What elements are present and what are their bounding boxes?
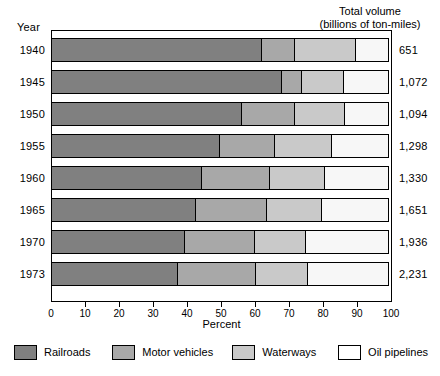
bar-segment-pipelines — [321, 198, 389, 222]
total-volume-value: 1,330 — [399, 172, 440, 184]
chart-legend: RailroadsMotor vehiclesWaterwaysOil pipe… — [14, 340, 428, 364]
stacked-bar — [51, 70, 392, 94]
total-volume-column-header: Total volume (billions of ton-miles) — [300, 5, 440, 31]
bar-segment-motor — [201, 166, 270, 190]
bar-segment-pipelines — [324, 166, 389, 190]
bar-segment-pipelines — [331, 134, 389, 158]
bar-segment-railroads — [51, 166, 202, 190]
total-volume-value: 1,094 — [399, 108, 440, 120]
legend-label: Waterways — [262, 346, 316, 358]
bar-segment-motor — [261, 38, 294, 62]
year-label: 1970 — [0, 236, 45, 248]
total-volume-value: 2,231 — [399, 268, 440, 280]
bar-segment-waterways — [301, 70, 344, 94]
bar-segment-pipelines — [343, 70, 389, 94]
year-label: 1965 — [0, 204, 45, 216]
bar-segment-waterways — [266, 198, 322, 222]
bar-segment-waterways — [294, 102, 345, 126]
x-axis-tick — [153, 302, 154, 307]
bar-segment-pipelines — [355, 38, 389, 62]
bar-segment-railroads — [51, 198, 196, 222]
bar-segment-railroads — [51, 38, 262, 62]
year-label: 1945 — [0, 76, 45, 88]
bar-segment-motor — [195, 198, 267, 222]
legend-swatch-waterways — [232, 345, 255, 360]
total-volume-value: 1,936 — [399, 236, 440, 248]
x-axis-tick — [357, 302, 358, 307]
x-axis-tick — [187, 302, 188, 307]
year-column-header: Year — [17, 21, 40, 33]
year-label: 1940 — [0, 44, 45, 56]
legend-item-motor[interactable]: Motor vehicles — [112, 345, 213, 360]
bar-segment-railroads — [51, 230, 185, 254]
total-volume-value: 1,072 — [399, 76, 440, 88]
bar-segment-pipelines — [344, 102, 389, 126]
bar-segment-pipelines — [307, 262, 389, 286]
stacked-bar — [51, 230, 392, 254]
bar-segment-motor — [177, 262, 256, 286]
x-axis-title: Percent — [51, 318, 392, 330]
bar-segment-railroads — [51, 70, 282, 94]
bar-segment-motor — [241, 102, 295, 126]
legend-label: Oil pipelines — [368, 346, 428, 358]
stacked-bar — [51, 198, 392, 222]
x-axis-tick — [85, 302, 86, 307]
bar-segment-waterways — [269, 166, 325, 190]
total-volume-value: 1,651 — [399, 204, 440, 216]
bar-segment-motor — [184, 230, 255, 254]
bar-segment-railroads — [51, 134, 220, 158]
bar-segment-waterways — [255, 262, 308, 286]
stacked-bar — [51, 166, 392, 190]
bar-segment-railroads — [51, 102, 242, 126]
bar-segment-motor — [281, 70, 302, 94]
bar-segment-motor — [219, 134, 275, 158]
year-label: 1973 — [0, 268, 45, 280]
legend-swatch-pipelines — [338, 345, 361, 360]
bar-segment-waterways — [294, 38, 356, 62]
bar-segment-waterways — [274, 134, 332, 158]
total-volume-header-line1: Total volume — [300, 5, 440, 18]
legend-label: Railroads — [44, 346, 90, 358]
stacked-bar — [51, 134, 392, 158]
legend-swatch-railroads — [14, 345, 37, 360]
bar-segment-waterways — [254, 230, 307, 254]
x-axis-tick — [255, 302, 256, 307]
year-label: 1955 — [0, 140, 45, 152]
x-axis-tick — [323, 302, 324, 307]
legend-item-railroads[interactable]: Railroads — [14, 345, 90, 360]
stacked-bar — [51, 262, 392, 286]
bar-segment-pipelines — [305, 230, 389, 254]
total-volume-value: 651 — [399, 44, 440, 56]
stacked-bar — [51, 38, 392, 62]
stacked-bar — [51, 102, 392, 126]
legend-item-waterways[interactable]: Waterways — [232, 345, 316, 360]
x-axis-tick — [119, 302, 120, 307]
year-label: 1950 — [0, 108, 45, 120]
x-axis-tick — [289, 302, 290, 307]
legend-item-pipelines[interactable]: Oil pipelines — [338, 345, 428, 360]
legend-swatch-motor — [112, 345, 135, 360]
year-label: 1960 — [0, 172, 45, 184]
legend-label: Motor vehicles — [142, 346, 213, 358]
total-volume-value: 1,298 — [399, 140, 440, 152]
x-axis-tick — [221, 302, 222, 307]
bar-segment-railroads — [51, 262, 178, 286]
